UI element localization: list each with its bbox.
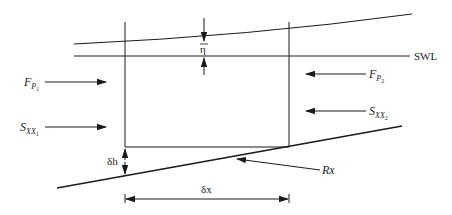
rx-leader-arrow (237, 159, 320, 170)
eta-label: η (200, 43, 206, 55)
eta-symbol: η (200, 43, 206, 55)
sxx1-label: SXX1 (20, 120, 39, 137)
fp1-subsub: 1 (36, 86, 39, 92)
dx-label: δx (201, 183, 212, 195)
sxx2-subsub: 2 (385, 115, 388, 121)
sxx1-subsub: 1 (36, 131, 39, 137)
rx-label: Rx (321, 163, 335, 177)
wave-setup-diagram: SWL η FP1 SXX1 FP2 SXX2 Rx δh δx (0, 0, 452, 215)
dh-symbol: δh (107, 155, 118, 167)
fp2-subsub: 2 (381, 78, 384, 84)
sxx2-label: SXX2 (369, 104, 388, 121)
fp1-label: FP1 (23, 75, 39, 92)
dx-symbol: δx (201, 183, 212, 195)
dh-label: δh (107, 155, 118, 167)
fp2-label: FP2 (368, 67, 384, 84)
swl-label: SWL (414, 50, 438, 62)
